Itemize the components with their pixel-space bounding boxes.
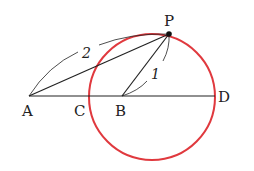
length-arc-AP-2 xyxy=(99,34,169,45)
label-C: C xyxy=(74,102,85,120)
length-arc-BP xyxy=(122,81,147,96)
segment-AP xyxy=(29,34,169,96)
geometry-diagram: 2 1 P A C B D xyxy=(0,0,254,171)
segment-BP xyxy=(122,34,169,96)
label-B: B xyxy=(115,102,126,120)
label-D: D xyxy=(218,88,230,106)
label-P: P xyxy=(164,12,174,30)
label-A: A xyxy=(21,102,33,120)
circle xyxy=(89,34,215,160)
length-label-AP: 2 xyxy=(81,45,91,61)
length-arc-AP xyxy=(29,52,78,96)
length-label-BP: 1 xyxy=(151,66,160,82)
point-P xyxy=(166,31,172,37)
